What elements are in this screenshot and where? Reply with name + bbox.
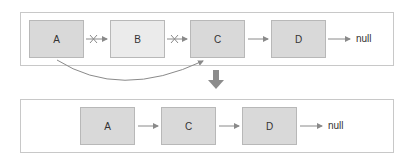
- connectors: [0, 0, 411, 161]
- broken-link-a-b: [86, 35, 107, 43]
- transition-down-arrow-icon: [208, 70, 224, 89]
- bypass-link-a-c: [57, 60, 203, 80]
- broken-link-b-c: [167, 35, 187, 43]
